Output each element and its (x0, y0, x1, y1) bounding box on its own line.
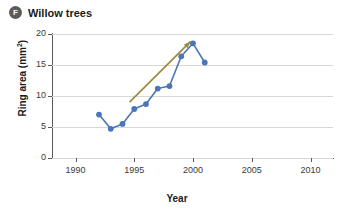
chart-canvas (0, 0, 354, 216)
data-point (108, 126, 114, 132)
data-point (155, 86, 161, 92)
y-tick-label: 0 (16, 152, 46, 162)
data-point (96, 112, 102, 118)
y-tick-mark (48, 96, 52, 97)
y-tick-mark (48, 34, 52, 35)
x-tick-label: 1995 (114, 165, 154, 175)
trend-arrow-shaft (130, 41, 191, 102)
data-point (190, 40, 196, 46)
chart-figure: F Willow trees Ring area (mm2) Year 0510… (0, 0, 354, 216)
x-tick-label: 2005 (232, 165, 272, 175)
y-tick-mark (48, 65, 52, 66)
x-tick-label: 1990 (56, 165, 96, 175)
y-tick-label: 5 (16, 121, 46, 131)
data-point (143, 101, 149, 107)
data-point (120, 121, 126, 127)
data-point (167, 83, 173, 89)
y-tick-mark (48, 127, 52, 128)
x-tick-label: 2000 (173, 165, 213, 175)
x-tick-mark (311, 158, 312, 162)
y-tick-mark (48, 158, 52, 159)
y-tick-label: 20 (16, 28, 46, 38)
x-tick-mark (76, 158, 77, 162)
y-tick-label: 10 (16, 90, 46, 100)
data-point (131, 106, 137, 112)
data-point (202, 60, 208, 66)
x-tick-label: 2010 (291, 165, 331, 175)
x-tick-mark (252, 158, 253, 162)
x-tick-mark (193, 158, 194, 162)
data-line (99, 43, 205, 129)
data-point (178, 53, 184, 59)
y-tick-label: 15 (16, 59, 46, 69)
x-tick-mark (134, 158, 135, 162)
